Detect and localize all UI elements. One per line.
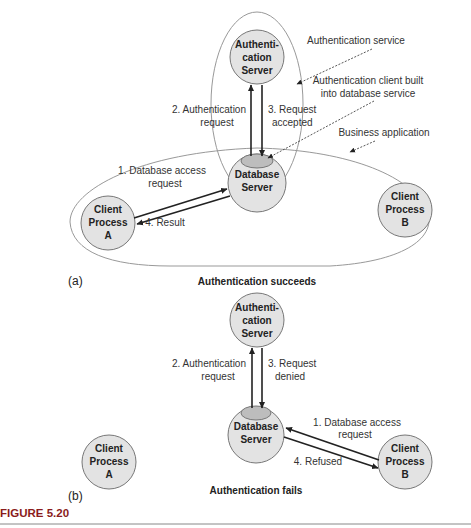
- panel-b-tag: (b): [68, 489, 83, 503]
- auth-request-label: 2. Authentication: [172, 104, 246, 115]
- refused-label: 4. Refused: [294, 456, 342, 467]
- auth-request-label: 2. Authentication: [172, 358, 246, 369]
- result-label: 4. Result: [145, 217, 185, 228]
- figure-label: FIGURE 5.20: [0, 507, 69, 519]
- db-access-label: request: [148, 178, 182, 189]
- auth-request-label: request: [200, 117, 234, 128]
- db-server-label: Database: [234, 421, 279, 432]
- auth-server-label: Server: [241, 65, 272, 76]
- client-a-label: Process: [90, 456, 129, 467]
- client-b-label: Client: [391, 443, 419, 454]
- client-b-label: Process: [386, 456, 425, 467]
- db-access-label: 1. Database access: [118, 165, 206, 176]
- client-b-node-b: Client Process B: [378, 435, 432, 489]
- auth-server-label: Authenti-: [235, 302, 279, 313]
- client-a-label: Client: [95, 443, 123, 454]
- business-app-pointer: [350, 141, 375, 152]
- db-server-label: Server: [240, 434, 271, 445]
- panel-b-caption: Authentication fails: [210, 485, 303, 496]
- request-denied-label: 3. Request: [268, 358, 317, 369]
- auth-server-node-b: Authenti- cation Server: [230, 293, 284, 347]
- client-a-label: Client: [94, 204, 122, 215]
- business-app-annotation: Business application: [338, 127, 429, 138]
- request-accepted-label: 3. Request: [268, 104, 317, 115]
- auth-client-tab: [241, 154, 273, 168]
- db-server-label: Server: [241, 182, 272, 193]
- auth-server-label: Authenti-: [235, 39, 279, 50]
- db-access-label: request: [338, 429, 372, 440]
- db-access-label: 1. Database access: [313, 417, 401, 428]
- client-a-label: Process: [89, 217, 128, 228]
- auth-request-label: request: [201, 371, 235, 382]
- request-accepted-label: accepted: [272, 117, 313, 128]
- auth-server-label: cation: [242, 52, 271, 63]
- panel-a-caption: Authentication succeeds: [198, 276, 317, 287]
- client-b-node-a: Client Process B: [378, 183, 432, 237]
- auth-client-annotation: into database service: [321, 88, 416, 99]
- db-server-label: Database: [235, 169, 280, 180]
- db-access-arrow: [134, 189, 227, 218]
- db-server-node-b: Database Server: [228, 406, 284, 463]
- client-a-label: A: [105, 469, 112, 480]
- client-a-node-b: Client Process A: [82, 435, 136, 489]
- client-b-label: B: [401, 217, 408, 228]
- client-b-label: Process: [386, 204, 425, 215]
- auth-service-annotation: Authentication service: [307, 35, 405, 46]
- request-denied-label: denied: [275, 371, 305, 382]
- auth-server-label: cation: [242, 315, 271, 326]
- panel-b: Authenti- cation Server Database Server …: [68, 293, 432, 503]
- client-b-label: B: [401, 469, 408, 480]
- client-b-label: Client: [391, 191, 419, 202]
- db-server-node-a: Database Server: [228, 154, 286, 212]
- auth-server-node-a: Authenti- cation Server: [230, 30, 284, 84]
- panel-a-tag: (a): [68, 274, 83, 288]
- auth-server-label: Server: [241, 328, 272, 339]
- auth-client-tab: [241, 406, 271, 420]
- client-a-label: A: [104, 230, 111, 241]
- client-a-node-a: Client Process A: [81, 196, 135, 250]
- auth-client-annotation: Authentication client built: [313, 75, 424, 86]
- panel-a: Authenti- cation Server Database Server …: [68, 12, 432, 288]
- diagram-canvas: Authenti- cation Server Database Server …: [0, 0, 471, 528]
